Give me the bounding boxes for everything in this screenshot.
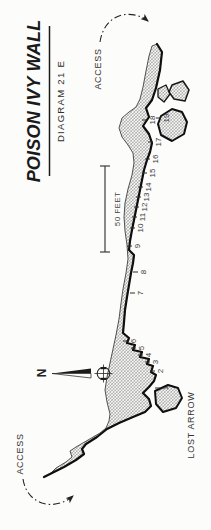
scale-bar: 50 FEET <box>100 166 122 252</box>
page-title: POISON IVY WALL <box>24 20 44 183</box>
route-number-15: 15 <box>148 168 157 177</box>
access-top-group: ACCESS <box>93 14 148 89</box>
route-number-10: 10 <box>136 223 145 232</box>
access-bottom-group: ACCESS <box>15 433 73 504</box>
route-number-13: 13 <box>142 192 151 201</box>
route-number-7: 7 <box>136 290 145 295</box>
guidebook-diagram-page: POISON IVY WALL DIAGRAM 21 E ACCESS ACCE… <box>0 0 211 530</box>
lost-arrow-label: LOST ARROW <box>186 392 196 459</box>
access-top-trail-arrow <box>100 14 148 42</box>
access-top-label: ACCESS <box>93 48 103 89</box>
route-number-16: 16 <box>151 154 160 163</box>
north-arrow-dark-half <box>52 369 91 374</box>
route-number-12: 12 <box>140 202 149 211</box>
compass: N <box>35 365 113 383</box>
route-number-1: 1 <box>161 385 170 390</box>
north-arrow-light-half <box>52 374 91 379</box>
upper-block-medium <box>169 81 189 101</box>
route-number-6: 6 <box>129 338 138 343</box>
route-number-8: 8 <box>139 269 148 274</box>
route-number-19: 19 <box>162 113 171 122</box>
route-number-5: 5 <box>137 345 146 350</box>
route-number-2: 2 <box>156 368 165 373</box>
route-number-17: 17 <box>154 137 163 146</box>
route-number-4: 4 <box>144 352 153 357</box>
topo-diagram: POISON IVY WALL DIAGRAM 21 E ACCESS ACCE… <box>0 0 211 530</box>
route-number-14: 14 <box>144 182 153 191</box>
detached-blocks-upper <box>158 81 189 141</box>
north-label: N <box>35 369 49 378</box>
access-bottom-trail-arrow <box>23 479 73 504</box>
route-number-18: 18 <box>148 115 157 124</box>
route-number-9: 9 <box>133 243 142 248</box>
scale-bar-label: 50 FEET <box>113 192 122 226</box>
access-bottom-label: ACCESS <box>15 433 25 474</box>
title-block: POISON IVY WALL DIAGRAM 21 E <box>24 20 66 183</box>
diagram-subtitle: DIAGRAM 21 E <box>55 60 66 142</box>
upper-block-small <box>158 85 170 102</box>
route-number-11: 11 <box>138 212 147 221</box>
route-number-3: 3 <box>151 359 160 364</box>
